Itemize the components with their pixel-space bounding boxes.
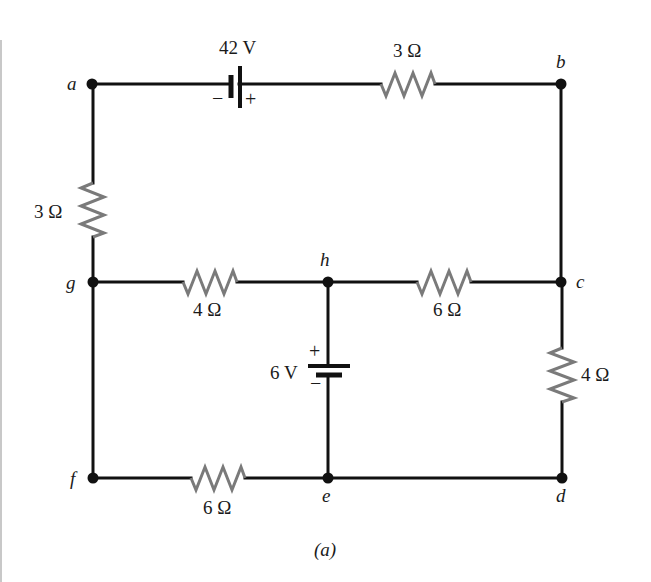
node-h (323, 277, 334, 288)
resistor-ag-label: 3 Ω (34, 201, 62, 222)
resistor-cd-label: 4 Ω (581, 364, 609, 385)
resistor-gh-label: 4 Ω (193, 299, 221, 320)
node-label-h: h (320, 249, 330, 270)
resistor-ab (381, 73, 435, 96)
source-42v-label: 42 V (219, 37, 256, 58)
node-label-c: c (576, 271, 585, 292)
node-label-b: b (556, 51, 566, 72)
source-42v-neg: − (212, 87, 223, 109)
resistor-ag (81, 183, 104, 237)
node-label-e: e (322, 485, 330, 506)
resistor-gh (183, 271, 237, 294)
source-6v-neg: − (310, 372, 321, 394)
node-label-d: d (556, 485, 566, 506)
figure-caption: (a) (314, 539, 336, 561)
source-6v-pos: + (309, 340, 320, 362)
node-c (556, 277, 567, 288)
node-d (557, 473, 568, 484)
node-e (323, 473, 334, 484)
node-a (87, 79, 98, 90)
node-label-f: f (70, 468, 78, 489)
node-b (556, 79, 567, 90)
resistor-fe-label: 6 Ω (203, 497, 231, 518)
resistor-hc-label: 6 Ω (433, 299, 461, 320)
resistor-ab-label: 3 Ω (393, 40, 421, 61)
battery-42v (231, 66, 240, 108)
source-42v-pos: + (245, 88, 256, 110)
node-g (88, 277, 99, 288)
source-6v-label: 6 V (270, 362, 298, 383)
circuit-diagram: a b g h c f e d 42 V − + 6 V + − 3 Ω 3 Ω… (0, 0, 651, 582)
node-label-g: g (66, 272, 76, 293)
node-f (88, 473, 99, 484)
resistor-hc (417, 271, 471, 294)
resistor-cd (550, 348, 574, 402)
resistor-fe (191, 467, 245, 490)
node-label-a: a (67, 73, 77, 94)
